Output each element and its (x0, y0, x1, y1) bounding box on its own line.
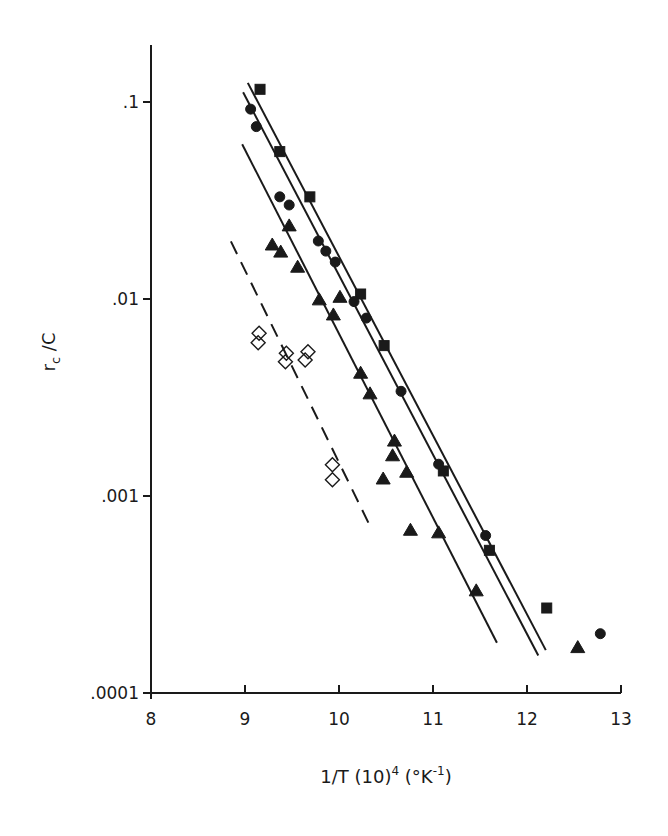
fit-line-circle (243, 92, 538, 655)
y-tick-label: .1 (123, 92, 139, 112)
axes: 8910111213.1.01.001.0001 (90, 45, 631, 729)
fit-line-diamond (231, 241, 369, 524)
circle-marker (246, 104, 256, 114)
square-marker (275, 147, 285, 157)
fit-lines (231, 83, 546, 656)
triangle-marker (363, 387, 377, 399)
circle-marker (349, 297, 359, 307)
circle-marker (321, 246, 331, 256)
x-tick-label: 9 (240, 709, 251, 729)
circle-marker (361, 313, 371, 323)
circle-marker (275, 192, 285, 202)
x-tick-label: 10 (328, 709, 350, 729)
triangle-marker (469, 584, 483, 596)
triangle-marker (265, 238, 279, 250)
triangle-marker (400, 465, 414, 477)
triangle-marker (571, 641, 585, 653)
y-tick-label: .001 (101, 486, 139, 506)
square-marker (379, 341, 389, 351)
circle-marker (313, 236, 323, 246)
x-tick-label: 11 (422, 709, 444, 729)
circle-marker (396, 386, 406, 396)
x-tick-label: 8 (146, 709, 157, 729)
circle-marker (434, 459, 444, 469)
circle-marker (481, 531, 491, 541)
y-tick-label: .01 (112, 289, 139, 309)
diamond-marker (252, 326, 266, 340)
triangle-marker (386, 449, 400, 461)
diamond-marker (251, 336, 265, 350)
square-marker (305, 192, 315, 202)
x-axis-label: 1/T (10)4 (°K-1) (320, 764, 451, 787)
square-marker (255, 84, 265, 94)
chart: 8910111213.1.01.001.0001 rc /C 1/T (10)4… (0, 0, 668, 836)
circle-marker (595, 629, 605, 639)
triangle-marker (403, 523, 417, 535)
y-axis-label: rc /C (38, 333, 63, 372)
data-markers (246, 84, 606, 652)
triangle-marker (376, 472, 390, 484)
square-marker (484, 545, 494, 555)
triangle-marker (312, 293, 326, 305)
chart-canvas: 8910111213.1.01.001.0001 rc /C 1/T (10)4… (0, 0, 668, 836)
x-tick-label: 12 (516, 709, 538, 729)
circle-marker (284, 200, 294, 210)
circle-marker (330, 257, 340, 267)
triangle-marker (432, 526, 446, 538)
circle-marker (251, 122, 261, 132)
triangle-marker (387, 434, 401, 446)
diamond-marker (325, 473, 339, 487)
y-tick-label: .0001 (90, 683, 139, 703)
x-tick-label: 13 (610, 709, 632, 729)
square-marker (542, 603, 552, 613)
triangle-marker (333, 290, 347, 302)
